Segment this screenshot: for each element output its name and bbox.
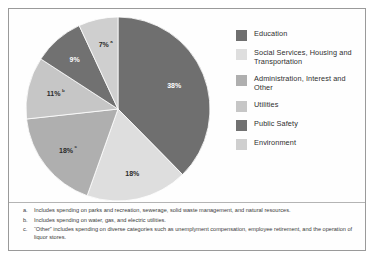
pie-slice-value: 7% xyxy=(99,41,110,48)
legend-label-social-services: Social Services, Housing and Transportat… xyxy=(254,48,360,67)
footnotes: a. Includes spending on parks and recrea… xyxy=(9,202,365,243)
pie-slices xyxy=(26,17,210,201)
footnote-a-marker: a. xyxy=(23,207,34,215)
legend-swatch-administration xyxy=(236,75,247,86)
pie-slice-value: 18% xyxy=(59,147,74,154)
pie-chart-svg: 38%18%18%c11%b9%7%a xyxy=(23,15,213,203)
figure-panel: 38%18%18%c11%b9%7%a Education Social Ser… xyxy=(8,8,366,251)
legend-label-environment: Environment xyxy=(254,138,296,147)
footnote-c-marker: c. xyxy=(23,226,34,241)
legend-swatch-public-safety xyxy=(236,120,247,131)
legend-swatch-environment xyxy=(236,139,247,150)
pie-slice-value: 18% xyxy=(125,170,140,177)
legend-label-utilities: Utilities xyxy=(254,100,278,109)
footnote-b-marker: b. xyxy=(23,217,34,225)
chart-legend: Education Social Services, Housing and T… xyxy=(236,29,360,157)
legend-label-administration: Administration, Interest and Other xyxy=(254,74,360,93)
footnote-b: b. Includes spending on water, gas, and … xyxy=(23,217,355,225)
pie-chart: 38%18%18%c11%b9%7%a xyxy=(23,15,213,203)
legend-swatch-social-services xyxy=(236,49,247,60)
legend-item-utilities[interactable]: Utilities xyxy=(236,100,360,112)
footnote-c: c. “Other” includes spending on diverse … xyxy=(23,226,355,241)
legend-label-public-safety: Public Safety xyxy=(254,119,298,128)
legend-swatch-utilities xyxy=(236,101,247,112)
pie-slice-value: 11% xyxy=(47,90,61,97)
legend-item-environment[interactable]: Environment xyxy=(236,138,360,150)
chart-area: 38%18%18%c11%b9%7%a Education Social Ser… xyxy=(9,9,365,205)
footnote-a-text: Includes spending on parks and recreatio… xyxy=(34,207,355,215)
legend-item-social-services[interactable]: Social Services, Housing and Transportat… xyxy=(236,48,360,67)
footnote-a: a. Includes spending on parks and recrea… xyxy=(23,207,355,215)
legend-item-education[interactable]: Education xyxy=(236,29,360,41)
pie-slice-footnote-marker: b xyxy=(62,88,65,93)
footnote-c-text: “Other” includes spending on diverse cat… xyxy=(34,226,355,241)
legend-label-education: Education xyxy=(254,29,287,38)
legend-swatch-education xyxy=(236,30,247,41)
legend-item-administration[interactable]: Administration, Interest and Other xyxy=(236,74,360,93)
footnote-b-text: Includes spending on water, gas, and ele… xyxy=(34,217,355,225)
pie-slice-value: 38% xyxy=(167,82,182,89)
legend-item-public-safety[interactable]: Public Safety xyxy=(236,119,360,131)
pie-slice-value: 9% xyxy=(69,56,80,63)
